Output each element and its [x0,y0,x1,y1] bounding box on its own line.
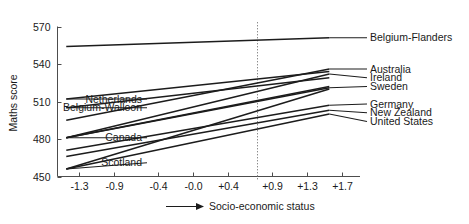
x-tick-label: +1.7 [332,180,353,192]
series-label: Belgium-Walloon [63,101,142,113]
series-label: Belgium-Flanders [370,31,452,43]
x-tick-label: +1.3 [297,180,318,192]
maths-score-vs-ses-chart: 570540510480450 Maths score -1.3-0.9-0.4… [0,0,469,224]
x-tick-label: +0.4 [218,180,239,192]
x-axis-tick-marks [80,173,343,177]
series-label: United States [370,115,433,127]
y-axis-title: Maths score [7,74,19,131]
x-axis-title: Socio-economic status [209,200,315,212]
label-leader-line [329,104,367,105]
x-axis-arrow-head [196,203,204,210]
label-leader-line [329,74,367,78]
y-tick-label: 570 [33,21,51,33]
x-tick-label: -0.4 [149,180,167,192]
y-tick-label: 480 [33,133,51,145]
chart-canvas: 570540510480450 Maths score -1.3-0.9-0.4… [0,0,469,224]
label-leader-line [329,110,367,113]
y-tick-label: 540 [33,58,51,70]
y-axis-tick-marks [58,28,62,178]
series-label: Canada [105,131,142,143]
x-tick-label: -1.3 [70,180,88,192]
label-leader-line [329,114,367,122]
series-label: Sweden [370,80,408,92]
y-tick-label: 450 [33,171,51,183]
x-tick-label: +0.9 [262,180,283,192]
x-tick-label: -0.0 [184,180,202,192]
label-leader-line [329,87,367,88]
y-axis-tick-labels: 570540510480450 [33,21,51,183]
series-line [66,38,329,47]
series-label: Scotland [101,156,142,168]
x-axis-tick-labels: -1.3-0.9-0.4-0.0+0.4+0.9+1.3+1.7 [70,180,353,192]
right-series-labels: Belgium-FlandersAustraliaIrelandSwedenGe… [370,31,452,127]
y-tick-label: 510 [33,96,51,108]
x-tick-label: -0.9 [105,180,123,192]
